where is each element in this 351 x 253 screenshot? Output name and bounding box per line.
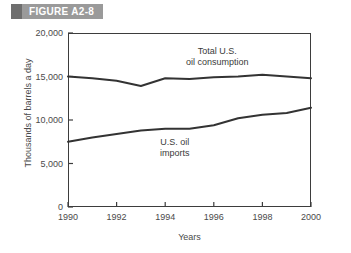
- annotation-consumption-line1: Total U.S.: [186, 46, 249, 57]
- annotation-imports-line2: imports: [160, 148, 190, 159]
- y-tick-label: 0: [58, 202, 63, 212]
- figure-container: FIGURE A2-8 Thousands of barrels a day Y…: [0, 0, 351, 253]
- banner-square-icon: [11, 4, 22, 19]
- x-tick-label: 2000: [301, 212, 321, 222]
- x-tick-label: 1996: [204, 212, 224, 222]
- x-tick-label: 1998: [252, 212, 272, 222]
- x-tick-label: 1992: [107, 212, 127, 222]
- x-tick-label: 1990: [58, 212, 78, 222]
- y-tick-label: 15,000: [35, 72, 63, 82]
- annotation-imports-line1: U.S. oil: [160, 137, 190, 148]
- x-axis-title: Years: [68, 232, 311, 242]
- y-tick-label: 10,000: [35, 115, 63, 125]
- figure-banner: FIGURE A2-8: [11, 4, 103, 19]
- series-annotation-consumption: Total U.S. oil consumption: [186, 46, 249, 69]
- figure-banner-label: FIGURE A2-8: [22, 4, 103, 19]
- plot-area: 05,00010,00015,00020,000 199019921994199…: [68, 33, 311, 207]
- x-tick-label: 1994: [155, 212, 175, 222]
- series-line-consumption: [68, 75, 311, 86]
- y-axis-title: Thousands of barrels a day: [23, 23, 33, 203]
- y-tick-label: 5,000: [40, 159, 63, 169]
- series-annotation-imports: U.S. oil imports: [160, 137, 190, 160]
- y-tick-label: 20,000: [35, 28, 63, 38]
- annotation-consumption-line2: oil consumption: [186, 57, 249, 68]
